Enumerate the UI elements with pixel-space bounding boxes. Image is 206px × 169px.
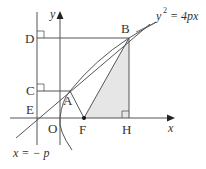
point-f-label: F [79, 122, 86, 137]
x-axis-label: x [167, 121, 174, 135]
origin-label: O [48, 121, 57, 136]
line-eab [16, 24, 150, 138]
directrix-label: x = − p [12, 146, 50, 160]
y-axis-label: y [49, 7, 56, 21]
parabola-equation-exp: 2 [163, 6, 167, 15]
parabola-equation-lhs: y [155, 9, 162, 23]
focus-point-f [82, 116, 86, 120]
point-a-label: A [63, 93, 73, 108]
right-angle-mark-d [37, 31, 44, 38]
point-e-label: E [26, 102, 34, 117]
parabola-equation-rhs: = 4px [170, 9, 199, 23]
diagram-canvas: y x O A B C D E F H y 2 = 4px x = − p [0, 0, 206, 169]
point-c-label: C [26, 83, 35, 98]
point-b-label: B [121, 21, 130, 36]
point-h-label: H [122, 122, 131, 137]
point-d-label: D [25, 31, 34, 46]
y-axis-arrow-icon [57, 11, 64, 19]
right-angle-mark-c [37, 84, 44, 91]
equation-leader-line [136, 23, 155, 32]
